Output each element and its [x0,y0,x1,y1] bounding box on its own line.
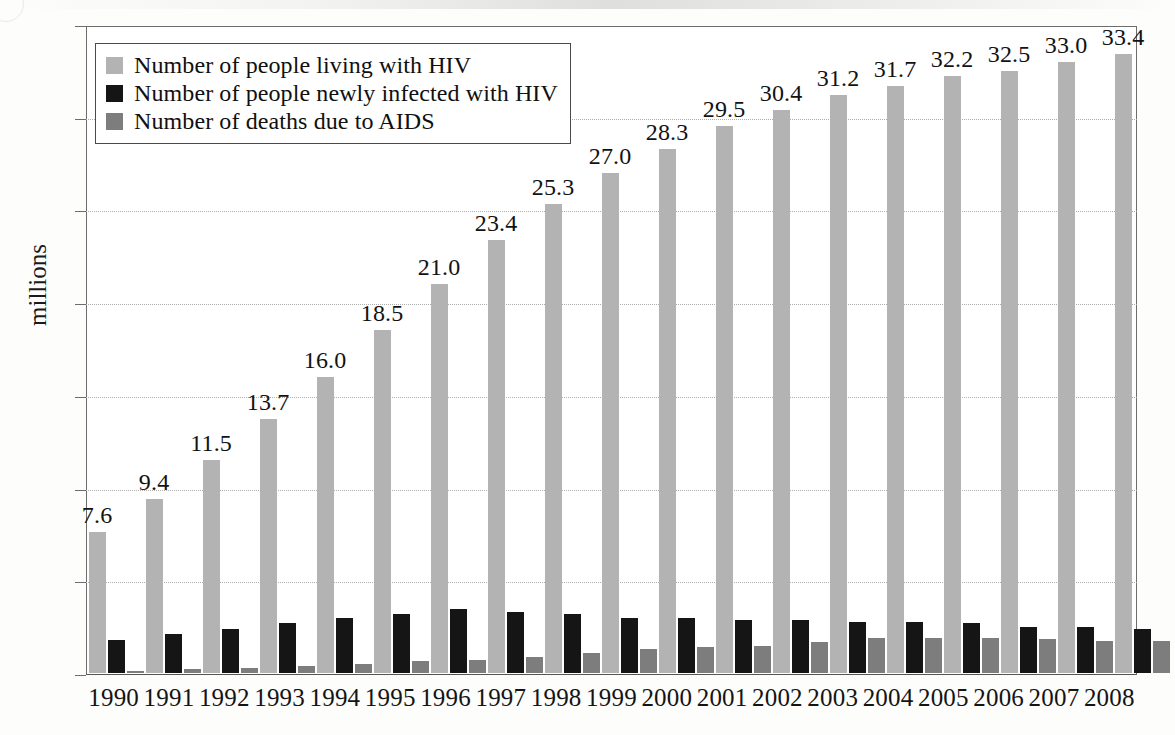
bar[interactable]: 13.7 [260,419,277,673]
bar[interactable] [184,669,201,674]
bar[interactable]: 31.7 [887,86,904,674]
legend-item[interactable]: Number of deaths due to AIDS [106,107,558,135]
bar-value-label: 33.4 [1102,24,1145,51]
bar[interactable]: 33.0 [1058,62,1075,674]
bar-group[interactable]: 32.5 [1000,28,1057,674]
bar-group[interactable]: 29.5 [715,28,772,674]
bar[interactable] [393,614,410,673]
bar[interactable] [108,640,125,673]
bar-group[interactable]: 33.0 [1057,28,1114,674]
bar[interactable] [165,634,182,673]
legend-item-label: Number of people newly infected with HIV [134,80,558,107]
bar[interactable]: 11.5 [203,460,220,673]
bar[interactable]: 28.3 [659,149,676,674]
bar[interactable]: 32.5 [1001,71,1018,674]
bar[interactable] [754,646,771,674]
bar-value-label: 9.4 [139,469,170,496]
bar[interactable] [583,653,600,673]
y-axis-tick-mark [75,26,86,27]
bar[interactable]: 32.2 [944,76,961,673]
bar[interactable] [640,649,657,673]
bar[interactable]: 30.4 [773,110,790,674]
bar[interactable] [526,657,543,674]
bar-value-label: 31.2 [817,65,860,92]
bar[interactable] [336,618,353,674]
legend-item-label: Number of people living with HIV [134,52,471,79]
bar[interactable]: 23.4 [488,240,505,674]
bar[interactable] [298,666,315,673]
bar[interactable] [906,622,923,674]
bar[interactable]: 16.0 [317,377,334,674]
scan-artifact-band [0,0,1175,9]
bar-group[interactable]: 31.7 [886,28,943,674]
dark-gray-swatch-icon [106,113,123,130]
x-axis-tick-label: 1993 [252,684,307,712]
bar[interactable] [412,661,429,673]
bar[interactable] [1134,629,1151,674]
bar[interactable] [564,614,581,673]
x-axis-tick-label: 1996 [418,684,473,712]
bar[interactable] [1153,641,1170,673]
bar-group[interactable]: 33.4 [1114,28,1171,674]
bar-group[interactable]: 31.2 [829,28,886,674]
bar[interactable] [792,620,809,674]
x-axis-tick-label: 1997 [473,684,528,712]
bar[interactable]: 27.0 [602,173,619,674]
x-axis-tick-label: 2005 [916,684,971,712]
x-axis-tick-label: 1991 [141,684,196,712]
bar[interactable] [621,618,638,674]
bar[interactable] [1039,639,1056,673]
bar[interactable]: 31.2 [830,95,847,674]
bar[interactable] [868,638,885,673]
x-axis-tick-label: 1992 [197,684,252,712]
bar[interactable] [241,668,258,674]
bar-group[interactable]: 30.4 [772,28,829,674]
bar[interactable] [678,618,695,674]
bar-value-label: 7.6 [82,502,113,529]
x-axis-tick-label: 1999 [584,684,639,712]
bar-group[interactable]: 32.2 [943,28,1000,674]
bar-value-label: 31.7 [874,56,917,83]
bar[interactable]: 21.0 [431,284,448,673]
bar[interactable] [811,642,828,674]
legend-item[interactable]: Number of people newly infected with HIV [106,79,558,107]
bar[interactable] [697,647,714,673]
bar[interactable]: 33.4 [1115,54,1132,673]
legend-item[interactable]: Number of people living with HIV [106,51,558,79]
bar[interactable] [507,612,524,673]
bar[interactable] [925,638,942,673]
bar[interactable] [222,629,239,674]
bar[interactable] [1020,627,1037,673]
bar[interactable] [450,609,467,674]
bar[interactable] [735,620,752,674]
bar[interactable]: 18.5 [374,330,391,673]
bar[interactable] [1077,627,1094,673]
bar-value-label: 11.5 [190,430,232,457]
bar-value-label: 29.5 [703,96,746,123]
bar[interactable]: 9.4 [146,499,163,673]
y-axis-tick-mark [75,304,86,305]
bar[interactable] [982,638,999,673]
bar[interactable]: 7.6 [89,532,106,673]
bar[interactable] [279,623,296,673]
bar-group[interactable]: 28.3 [658,28,715,674]
bar[interactable] [355,664,372,673]
bar[interactable]: 25.3 [545,204,562,673]
bar[interactable] [1096,641,1113,673]
bar[interactable] [849,622,866,674]
bar[interactable] [963,623,980,673]
chart-page: 05101520253035 millions 7.69.411.513.716… [0,0,1175,735]
bar[interactable] [127,671,144,674]
bar-value-label: 16.0 [304,347,347,374]
x-axis-tick-labels: 1990199119921993199419951996199719981999… [86,684,1137,712]
x-axis-tick-label: 2006 [971,684,1026,712]
y-axis-tick-mark [75,490,86,491]
bar[interactable]: 29.5 [716,126,733,673]
legend: Number of people living with HIV Number … [95,43,571,144]
bar[interactable] [469,660,486,674]
bar-value-label: 33.0 [1045,32,1088,59]
bar-value-label: 13.7 [247,389,290,416]
y-axis-tick-mark [75,119,86,120]
x-axis-tick-label: 2007 [1026,684,1081,712]
y-axis-tick-mark [75,397,86,398]
